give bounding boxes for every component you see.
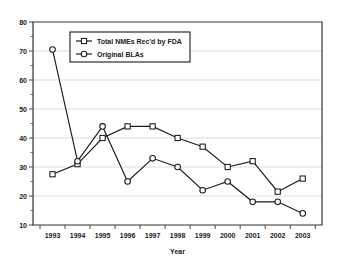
data-point-square	[300, 176, 305, 181]
data-point-circle-legend	[81, 51, 87, 57]
series-1	[50, 124, 305, 194]
data-point-square	[125, 124, 130, 129]
data-point-square	[200, 144, 205, 149]
x-axis-tick-label: 1994	[70, 232, 86, 239]
x-axis-tick-label: 1998	[170, 232, 186, 239]
x-axis-tick-label: 1993	[45, 232, 61, 239]
x-axis-tick-label: 2002	[270, 232, 286, 239]
data-point-square	[225, 164, 230, 169]
legend-label: Original BLAs	[97, 51, 144, 59]
legend-label: Total NMEs Rec'd by FDA	[97, 38, 182, 46]
series-line	[53, 50, 303, 214]
data-point-circle	[50, 47, 56, 53]
data-point-square	[250, 159, 255, 164]
data-point-circle	[100, 124, 106, 130]
x-axis-title: Year	[170, 248, 185, 255]
data-point-circle	[250, 199, 256, 205]
y-axis-tick-label: 30	[19, 164, 27, 171]
y-axis-tick-label: 20	[19, 193, 27, 200]
data-point-square	[175, 135, 180, 140]
data-point-circle	[300, 211, 306, 217]
x-axis-tick-label: 1996	[120, 232, 136, 239]
data-point-circle	[150, 156, 156, 162]
x-axis-tick-label: 1995	[95, 232, 111, 239]
x-axis-tick-label: 2000	[220, 232, 236, 239]
chart-canvas: 1020304050607080199319941995199619971998…	[0, 0, 337, 263]
data-point-square	[100, 135, 105, 140]
line-chart: 1020304050607080199319941995199619971998…	[0, 0, 337, 263]
data-point-square	[150, 124, 155, 129]
y-axis-tick-label: 40	[19, 135, 27, 142]
series-2	[50, 47, 306, 216]
y-axis-tick-label: 10	[19, 222, 27, 229]
y-axis-tick-label: 50	[19, 106, 27, 113]
data-point-square	[50, 172, 55, 177]
legend: Total NMEs Rec'd by FDAOriginal BLAs	[70, 32, 190, 62]
data-point-circle	[75, 158, 81, 164]
data-point-circle	[175, 164, 181, 170]
data-point-square-legend	[81, 38, 86, 43]
data-point-square	[275, 189, 280, 194]
x-axis-tick-label: 2001	[245, 232, 261, 239]
x-axis-tick-label: 1999	[195, 232, 211, 239]
y-axis-tick-label: 60	[19, 77, 27, 84]
x-axis-tick-label: 2003	[295, 232, 311, 239]
x-axis-tick-label: 1997	[145, 232, 161, 239]
y-axis-tick-label: 70	[19, 48, 27, 55]
data-point-circle	[200, 187, 206, 193]
data-point-circle	[125, 179, 131, 185]
y-axis-tick-label: 80	[19, 19, 27, 26]
data-point-circle	[225, 179, 231, 185]
data-point-circle	[275, 199, 281, 205]
